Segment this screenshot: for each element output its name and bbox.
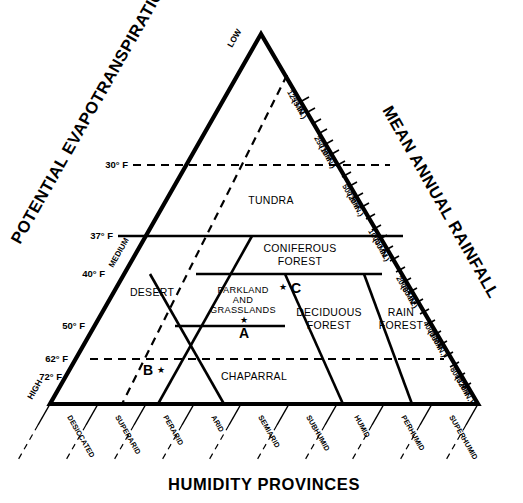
province-superarid: SUPERARID [113, 414, 143, 457]
biome-parkland-line3: GRASSLANDS [210, 305, 276, 315]
biome-parkland-line1: PARKLAND [217, 285, 268, 295]
biome-coniferous-forest-line2: FOREST [278, 255, 323, 267]
province-perarid: PERARID [161, 414, 186, 448]
marker-c-label: C [291, 280, 301, 296]
biome-rain-forest-line1: RAIN [388, 306, 414, 318]
outer-triangle [50, 34, 478, 404]
rain-tick-4000: 4000 MM (160 IN.) [421, 320, 449, 360]
rain-tick-8000: 8000 MM (320 IN.) [448, 366, 476, 406]
humidity-province-labels: DESICCATED SUPERARID PERARID ARID SEMIAR… [65, 414, 480, 462]
temp-tick-50: 50° F [62, 320, 85, 331]
province-semiarid: SEMIARID [256, 414, 282, 450]
province-humid: HUMID [352, 414, 372, 440]
corner-high-label: HIGH [25, 378, 44, 401]
province-superhumid: SUPERHUMID [447, 414, 480, 462]
triangle-chart-svg: 30° F 37° F 40° F 50° F 62° F 72° F POTE… [0, 0, 523, 503]
province-desiccated: DESICCATED [65, 414, 97, 460]
apex-low-label: LOW [225, 27, 243, 49]
biome-coniferous-forest-line1: CONIFEROUS [263, 242, 336, 254]
svg-text:(160 IN.): (160 IN.) [426, 329, 449, 360]
biome-parkland-line2: AND [233, 295, 253, 305]
marker-a-star: ★ [240, 315, 248, 325]
temp-tick-72: 72° F [39, 371, 62, 382]
chart-title: HUMIDITY PROVINCES [168, 475, 360, 493]
temp-tick-37: 37° F [90, 230, 113, 241]
marker-b-star: ★ [157, 365, 165, 375]
temp-tick-62: 62° F [45, 353, 68, 364]
biome-chaparral: CHAPARRAL [221, 370, 287, 382]
marker-c-star: ★ [279, 282, 287, 292]
province-arid: ARID [209, 414, 226, 435]
biome-tundra: TUNDRA [248, 194, 294, 206]
svg-text:(320 IN.): (320 IN.) [453, 375, 476, 406]
biome-deciduous-forest-line1: DECIDUOUS [296, 306, 362, 318]
biome-rain-forest-line2: FOREST [379, 319, 424, 331]
marker-a-label: A [239, 325, 249, 341]
left-axis-title-group: POTENTIAL EVAPOTRANSPIRATION [7, 0, 173, 246]
life-zone-diagram: 30° F 37° F 40° F 50° F 62° F 72° F POTE… [0, 0, 523, 503]
left-axis-title: POTENTIAL EVAPOTRANSPIRATION [7, 0, 173, 246]
biome-desert: DESERT [130, 286, 174, 298]
temp-tick-30: 30° F [105, 159, 128, 170]
marker-b-label: B [143, 362, 153, 378]
temp-tick-40: 40° F [82, 268, 105, 279]
biome-labels: TUNDRA CONIFEROUS FOREST DESERT PARKLAND… [130, 194, 424, 382]
biome-deciduous-forest-line2: FOREST [307, 319, 352, 331]
